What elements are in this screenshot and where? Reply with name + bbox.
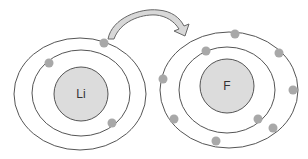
li-electron [108,119,117,128]
li-electron [45,59,54,68]
f-electron [269,124,278,133]
electron-transfer-arrow [108,10,189,39]
f-electron [159,75,168,84]
f-label: F [223,79,230,93]
li-electron [100,39,109,48]
f-electron [202,47,211,56]
f-electron [254,115,263,124]
curved-arrow-icon [108,10,189,39]
f-electron [275,49,284,58]
f-electron [170,115,179,124]
f-electron [231,30,240,39]
fluorine-atom: F [159,30,299,149]
ionic-bond-diagram: Li F [0,0,308,159]
lithium-atom: Li [14,38,146,150]
f-electron [212,137,221,146]
f-electron [289,86,298,95]
li-label: Li [76,87,85,101]
